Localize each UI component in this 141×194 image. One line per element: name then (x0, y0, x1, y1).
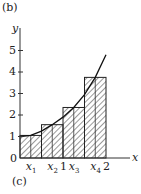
y-tick-2: 2 (9, 109, 16, 120)
x-tick-x4: x4 (90, 161, 101, 177)
x-tick-2: 2 (103, 161, 110, 172)
origin-label: 0 (10, 153, 17, 164)
x-tick-x3: x3 (69, 161, 80, 177)
y-axis-label: y (12, 23, 18, 34)
x-tick-x1: x1 (26, 161, 37, 177)
y-tick-5: 5 (9, 45, 16, 56)
y-tick-3: 3 (9, 88, 16, 99)
x-axis-label: x (132, 152, 138, 163)
x-tick-x2: x2 (47, 161, 58, 177)
x-tick-1: 1 (60, 161, 67, 172)
y-tick-1: 1 (9, 131, 16, 142)
y-tick-4: 4 (9, 66, 16, 77)
